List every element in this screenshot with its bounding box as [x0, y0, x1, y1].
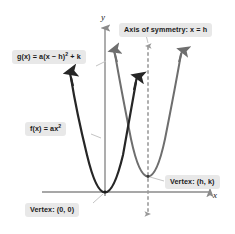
f-parabola-right-arrow: [134, 76, 137, 90]
leader-vertex-hk: [150, 177, 164, 181]
callout-f-exponent: 2: [58, 123, 61, 129]
f-parabola-curve: [71, 78, 136, 193]
callout-g-suffix: + k: [68, 52, 81, 61]
callout-f-prefix: f(x) = ax: [30, 124, 58, 133]
callout-vertex-hk: Vertex: (h, k): [165, 175, 220, 189]
leader-f-label: [91, 134, 101, 138]
y-axis-label: y: [101, 13, 105, 22]
callout-g-prefix: g(x) = a(x − h): [17, 52, 65, 61]
callout-f-function: f(x) = ax2: [25, 122, 66, 136]
callout-vertex-origin: Vertex: (0, 0): [25, 203, 79, 217]
callout-axis-of-symmetry: Axis of symmetry: x = h: [119, 23, 212, 37]
callout-g-function: g(x) = a(x − h)2 + k: [12, 50, 86, 64]
x-axis-label: x: [213, 191, 217, 200]
parabola-diagram: y x Axis of symmetry: x = h g(x) = a(x −…: [0, 0, 235, 234]
vertex-hk-dot: [147, 175, 150, 178]
leader-vertex-origin: [93, 194, 103, 203]
vertex-origin-dot: [104, 191, 107, 194]
